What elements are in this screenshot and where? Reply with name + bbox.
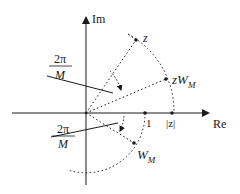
svg-text:2π: 2π [54,52,66,66]
point-one [143,111,147,115]
svg-text:M: M [54,68,66,82]
point-abs-z [170,111,174,115]
point-z [134,38,138,42]
label-z: z [142,31,148,45]
arc-radius-abs-z [128,34,174,112]
label-WM: WM [137,147,156,165]
label-one: 1 [146,117,152,129]
imag-axis-label: Im [92,12,106,26]
label-abs-z: |z| [166,117,175,129]
label-zWM: zWM [171,72,196,90]
angle-arc-upper [110,71,121,90]
point-WM [132,141,136,145]
svg-text:2π: 2π [57,122,69,136]
point-zWM [164,77,168,81]
dotted-rays [86,34,166,143]
real-axis-label: Re [213,117,226,131]
origin-point [85,112,87,114]
angle-arc-lower [120,116,124,131]
svg-text:M: M [57,137,69,151]
complex-plane-diagram: Im Re z zWM 1 |z| WM 2π M 2π M [0,0,240,194]
